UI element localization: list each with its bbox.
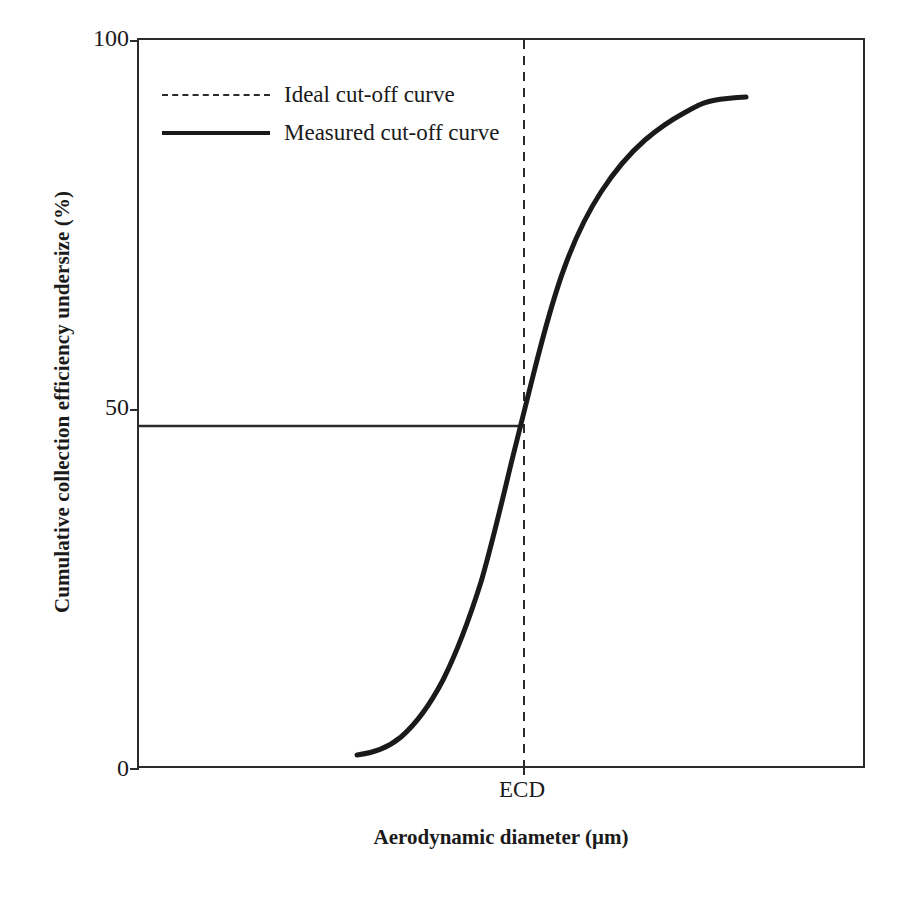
y-tick-mark-50 — [130, 409, 139, 411]
legend-item-ideal: Ideal cut-off curve — [162, 76, 492, 114]
legend-swatch-solid — [162, 126, 270, 140]
solid-line-icon — [162, 131, 270, 135]
chart-figure: Cumulative collection efficiency undersi… — [0, 0, 916, 903]
y-tick-label-0: 0 — [117, 756, 129, 780]
legend-swatch-dashed — [162, 88, 270, 102]
chart-legend: Ideal cut-off curve Measured cut-off cur… — [162, 76, 492, 152]
x-tick-label-ecd: ECD — [472, 777, 572, 803]
x-axis-title: Aerodynamic diameter (μm) — [137, 825, 865, 850]
y-tick-label-50: 50 — [105, 395, 129, 419]
y-tick-mark-100 — [130, 40, 139, 42]
legend-label-measured: Measured cut-off curve — [270, 120, 499, 146]
y-tick-label-100: 100 — [93, 26, 129, 50]
plot-area: Ideal cut-off curve Measured cut-off cur… — [137, 38, 865, 768]
legend-item-measured: Measured cut-off curve — [162, 114, 492, 152]
dashed-line-icon — [162, 94, 270, 96]
y-axis-title: Cumulative collection efficiency undersi… — [42, 32, 82, 772]
y-tick-mark-0 — [130, 768, 139, 770]
legend-label-ideal: Ideal cut-off curve — [270, 82, 455, 108]
